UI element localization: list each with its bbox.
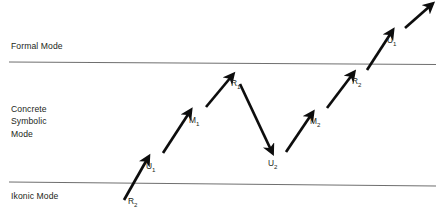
node-label-r2-second: R2 [352, 76, 361, 86]
node-label-subscript: 2 [274, 163, 277, 170]
node-label-subscript: 2 [134, 201, 137, 208]
node-label-subscript: 2 [317, 121, 320, 128]
diagram-canvas: Formal Mode Concrete Symbolic Mode Ikoni… [0, 0, 438, 224]
arrow-u1-to-end [405, 6, 430, 28]
arrow-u1-to-m1 [163, 113, 189, 153]
mode-boundary-lines [9, 62, 436, 186]
node-label-subscript: 1 [237, 83, 240, 90]
arrow-u2-to-m2 [286, 115, 311, 152]
node-label-base: M [189, 115, 196, 125]
diagram-graphic [0, 0, 438, 224]
node-label-u2: U2 [268, 158, 277, 168]
node-label-subscript: 1 [393, 40, 396, 47]
concrete-ikonic-boundary-line [9, 182, 436, 186]
node-label-u1-second: U1 [387, 35, 396, 45]
node-label-subscript: 2 [358, 81, 361, 88]
node-label-u1-first: U1 [146, 161, 155, 171]
mode-band-label-formal: Formal Mode [11, 40, 63, 52]
node-label-subscript: 1 [152, 166, 155, 173]
arrow-m1-to-r1 [206, 77, 231, 107]
progression-arrows [124, 6, 430, 200]
node-label-m2: M2 [310, 116, 320, 126]
arrow-m2-to-r2 [327, 75, 352, 108]
node-label-base: M [310, 116, 317, 126]
arrow-r1-to-u2 [240, 84, 271, 150]
mode-band-label-ikonic: Ikonic Mode [11, 190, 58, 202]
mode-band-label-concrete: Concrete Symbolic Mode [11, 103, 47, 140]
arrow-r2-to-u1 [124, 160, 147, 201]
node-label-m1: M1 [189, 115, 199, 125]
node-label-r1: R1 [231, 78, 240, 88]
node-label-subscript: 1 [196, 120, 199, 127]
node-label-r2-start: R2 [128, 196, 137, 206]
